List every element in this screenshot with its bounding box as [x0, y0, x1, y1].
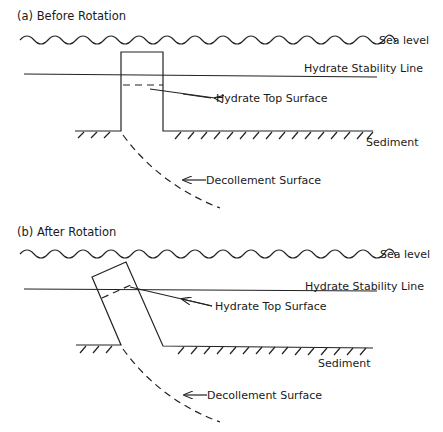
hydrate-top-surface-dashed — [102, 284, 133, 298]
hydrate-top-surface-label: Hydrate Top Surface — [216, 92, 328, 105]
sediment-hatch-left — [78, 132, 110, 138]
panel-a-before-rotation: (a) Before Rotation Sea level Hydrate St… — [17, 9, 429, 208]
sediment-label: Sediment — [318, 357, 371, 370]
sea-level-label: Sea level — [380, 248, 430, 261]
pointer-arrow — [182, 299, 212, 306]
sea-level-wave — [20, 249, 396, 258]
hydrate-stability-line-label: Hydrate Stability Line — [305, 280, 424, 293]
sediment-hatch-right — [175, 132, 373, 139]
decollement-surface-label: Decollement Surface — [206, 174, 321, 187]
sediment-hatch-left — [80, 346, 112, 353]
decollement-surface-label: Decollement Surface — [207, 389, 322, 402]
hydrate-stability-line-label: Hydrate Stability Line — [304, 62, 423, 75]
pointer-shaft — [183, 94, 211, 98]
hydrate-rotation-diagram: (a) Before Rotation Sea level Hydrate St… — [0, 0, 443, 432]
hydrate-top-surface-label: Hydrate Top Surface — [215, 300, 327, 313]
decollement-surface-dashed — [123, 135, 220, 208]
panel-b-after-rotation: (b) After Rotation Sea level Hydrate Sta… — [17, 225, 430, 422]
sea-level-label: Sea level — [379, 34, 429, 47]
panel-b-title: (b) After Rotation — [17, 225, 116, 239]
sea-level-wave — [20, 35, 396, 44]
sediment-label: Sediment — [366, 136, 419, 149]
panel-a-title: (a) Before Rotation — [17, 9, 126, 23]
decollement-surface-dashed — [123, 349, 220, 422]
